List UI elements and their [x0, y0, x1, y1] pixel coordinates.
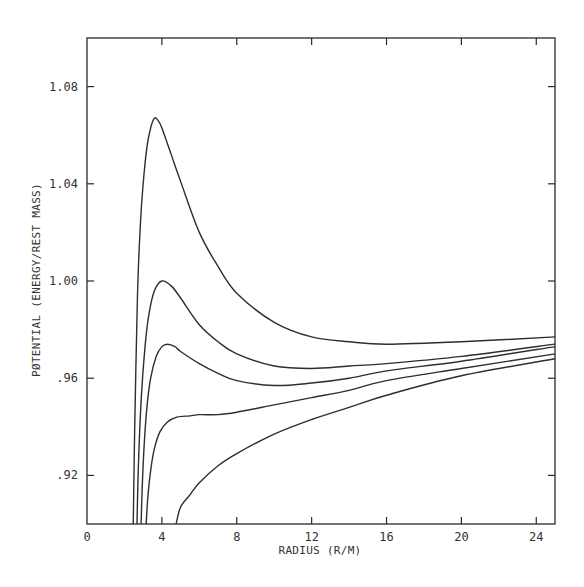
plot-frame [87, 38, 555, 524]
x-tick-label: 12 [304, 530, 318, 544]
y-tick-label: 1.08 [49, 80, 78, 94]
x-axis-ticks: 04812162024 [83, 38, 543, 544]
potential-curve-4 [146, 354, 555, 524]
x-tick-label: 8 [233, 530, 240, 544]
potential-curve-5 [176, 359, 555, 524]
y-tick-label: 1.04 [49, 177, 78, 191]
y-axis-ticks: .92.961.001.041.08 [49, 80, 555, 483]
x-axis-title: RADIUS (R/M) [278, 544, 361, 557]
y-tick-label: .96 [56, 371, 78, 385]
x-tick-label: 20 [454, 530, 468, 544]
x-tick-label: 24 [529, 530, 543, 544]
potential-curve-2 [137, 281, 555, 524]
plot-border [87, 38, 555, 524]
y-axis-title: PØTENTIAL (ENERGY/REST MASS) [30, 183, 43, 377]
potential-chart: 04812162024 .92.961.001.041.08 RADIUS (R… [0, 0, 584, 587]
y-tick-label: 1.00 [49, 274, 78, 288]
potential-curves [133, 118, 555, 524]
x-tick-label: 0 [83, 530, 90, 544]
x-tick-label: 16 [379, 530, 393, 544]
potential-curve-3 [141, 344, 555, 524]
y-tick-label: .92 [56, 468, 78, 482]
x-tick-label: 4 [158, 530, 165, 544]
